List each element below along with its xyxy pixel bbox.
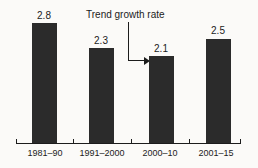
annotation-leader-vertical xyxy=(128,22,129,61)
x-axis-category-label: 1981–90 xyxy=(21,148,69,158)
axis-endcap-left xyxy=(16,139,17,144)
bar-2001-15 xyxy=(206,39,231,143)
x-axis-category-label: 1991–2000 xyxy=(75,148,129,158)
bar-value-label: 2.3 xyxy=(87,35,115,46)
bar-value-label: 2.1 xyxy=(147,43,175,54)
bar-value-label: 2.8 xyxy=(30,10,58,21)
axis-tick xyxy=(131,139,132,143)
x-axis-line xyxy=(16,143,241,144)
annotation-label: Trend growth rate xyxy=(86,9,165,20)
x-axis-category-label: 2000–10 xyxy=(136,148,184,158)
bar-value-label: 2.5 xyxy=(204,25,232,36)
axis-tick xyxy=(73,139,74,143)
axis-tick xyxy=(189,139,190,143)
axis-endcap-right xyxy=(240,139,241,144)
bar-1981-90 xyxy=(32,23,57,143)
bar-1991-2000 xyxy=(89,48,114,143)
annotation-leader-horizontal xyxy=(128,60,145,61)
plot-area: Trend growth rate 2.8 2.3 2.1 2.5 1981–9… xyxy=(0,0,258,168)
x-axis-category-label: 2001–15 xyxy=(192,148,240,158)
bar-2000-10 xyxy=(149,56,174,143)
bar-chart-figure: Trend growth rate 2.8 2.3 2.1 2.5 1981–9… xyxy=(0,0,258,168)
